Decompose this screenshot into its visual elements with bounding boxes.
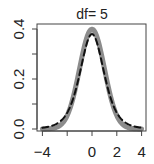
chart-title: df= 5 — [76, 6, 108, 22]
normal-density-curve — [42, 29, 141, 129]
x-axis: −4024 — [34, 131, 146, 160]
density-chart: df= 5 −4024 0.00.20.4 — [0, 0, 154, 164]
x-tick-label: −4 — [34, 143, 51, 160]
y-tick-label: 0.0 — [10, 119, 27, 140]
plot-curves — [42, 29, 141, 129]
x-tick-label: 2 — [113, 143, 121, 160]
y-axis: 0.00.20.4 — [10, 19, 37, 140]
x-tick-label: 4 — [137, 143, 145, 160]
y-tick-label: 0.4 — [10, 19, 27, 40]
t-density-curve — [42, 34, 141, 128]
x-tick-label: 0 — [88, 143, 96, 160]
y-tick-label: 0.2 — [10, 69, 27, 90]
plot-frame — [37, 24, 146, 131]
